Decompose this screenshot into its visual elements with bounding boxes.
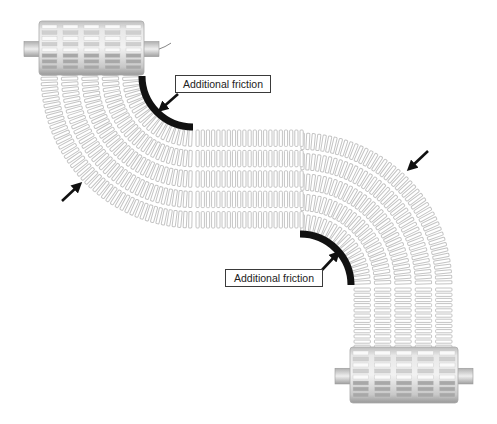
direction-arrow-left-icon: [62, 185, 79, 201]
conveyor-diagram: Additional friction Additional friction: [0, 0, 497, 424]
friction-label-top: Additional friction: [175, 75, 271, 93]
belt-links: [41, 73, 452, 354]
idler-roller-bottom: [335, 347, 473, 403]
direction-arrow-right-icon: [410, 151, 428, 168]
pointer-arrow-top-icon: [161, 94, 178, 109]
drive-roller-top: [24, 21, 171, 75]
friction-label-bottom: Additional friction: [225, 269, 323, 287]
conveyor-drawing: [0, 0, 497, 424]
pointer-arrow-bottom-icon: [322, 254, 337, 270]
